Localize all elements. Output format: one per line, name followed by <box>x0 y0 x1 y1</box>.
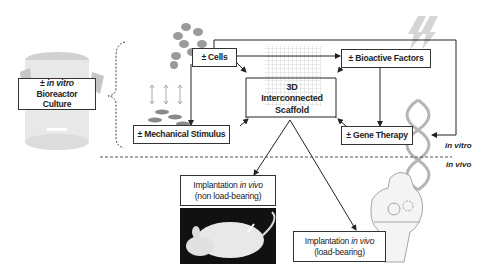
bioactive-illustration <box>408 16 438 50</box>
implant-non-prefix: Implantation <box>193 180 240 190</box>
bioreactor-italic: in vitro <box>47 78 74 88</box>
implant-non-italic: in vivo <box>240 180 263 190</box>
scaffold-line3: Scaffold <box>275 105 309 116</box>
bioreactor-rest: Bioreactor <box>37 89 78 99</box>
mechanical-arrows-illustration <box>150 85 182 104</box>
implant-non-load-box: Implantation in vivo (non load-bearing) <box>180 175 276 206</box>
cells-label: ± Cells <box>201 52 227 63</box>
rat-photo <box>180 208 276 264</box>
implant-load-line2: (load-bearing) <box>314 247 365 258</box>
bioreactor-culture-box: ± in vitro Bioreactor Culture <box>18 78 96 110</box>
gene-therapy-box: ± Gene Therapy <box>341 126 413 145</box>
implant-load-box: Implantation in vivo (load-bearing) <box>293 231 386 262</box>
scaffold-label: 3D Interconnected Scaffold <box>256 82 328 116</box>
bioactive-factors-box: ± Bioactive Factors <box>341 49 431 68</box>
mechanical-label: ± Mechanical Stimulus <box>138 129 226 140</box>
bioreactor-prefix: ± <box>40 78 47 88</box>
implant-non-line2: (non load-bearing) <box>195 191 262 202</box>
implant-load-italic: in vivo <box>351 236 374 246</box>
scaffold-line2: Interconnected <box>261 93 323 104</box>
mechanical-stimulus-box: ± Mechanical Stimulus <box>133 125 230 144</box>
gene-label: ± Gene Therapy <box>346 130 408 141</box>
bioactive-label: ± Bioactive Factors <box>349 53 424 64</box>
tissue-engineering-diagram: ± in vitro Bioreactor Culture ± Cells ± … <box>0 0 488 278</box>
diagram-lines <box>0 0 488 278</box>
in-vitro-label: in vitro <box>445 141 472 150</box>
bioreactor-line2: Culture <box>43 99 72 110</box>
implant-load-prefix: Implantation <box>305 236 352 246</box>
in-vivo-label: in vivo <box>446 160 471 169</box>
scaffold-line1: 3D <box>286 82 297 93</box>
cells-box: ± Cells <box>192 48 237 67</box>
